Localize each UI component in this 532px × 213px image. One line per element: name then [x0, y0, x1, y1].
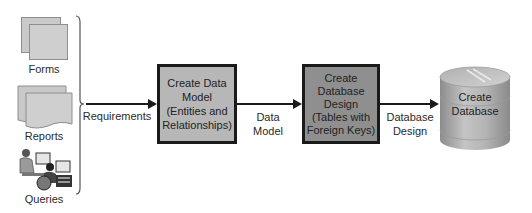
step2-line4: (Tables with — [307, 111, 375, 124]
queries-label: Queries — [12, 193, 76, 206]
queries-icon — [16, 147, 76, 193]
brace — [74, 14, 86, 196]
step1-line2: Model — [162, 90, 232, 104]
database-design-label-line1: Database — [382, 110, 438, 124]
arrow-database-design-line — [380, 103, 430, 105]
data-model-label: Data Model — [243, 110, 293, 138]
step2-line1: Create — [307, 72, 375, 85]
database-design-label-line2: Design — [382, 124, 438, 138]
requirements-label: Requirements — [82, 110, 152, 123]
database-design-label: Database Design — [382, 110, 438, 138]
data-model-label-line1: Data — [243, 110, 293, 124]
step3-line2: Database — [439, 104, 511, 118]
arrow-requirements-head — [148, 99, 157, 109]
form-page-front — [29, 24, 68, 60]
arrow-data-model-line — [237, 103, 293, 105]
step1-line1: Create Data — [162, 76, 232, 90]
forms-label: Forms — [14, 63, 74, 76]
data-model-label-line2: Model — [243, 124, 293, 138]
step1-line3: (Entities and — [162, 104, 232, 118]
step2-line2: Database — [307, 85, 375, 98]
create-data-model-box: Create Data Model (Entities and Relation… — [157, 64, 237, 144]
step2-line5: Foreign Keys) — [307, 124, 375, 137]
arrow-database-design-head — [430, 99, 439, 109]
arrow-requirements-line — [86, 103, 148, 105]
create-database-label: Create Database — [439, 90, 511, 118]
create-database-design-box: Create Database Design (Tables with Fore… — [302, 64, 380, 144]
step3-line1: Create — [439, 90, 511, 104]
reports-icon — [16, 84, 76, 132]
step2-line3: Design — [307, 98, 375, 111]
reports-label: Reports — [12, 130, 76, 143]
step1-line4: Relationships) — [162, 118, 232, 132]
arrow-data-model-head — [293, 99, 302, 109]
